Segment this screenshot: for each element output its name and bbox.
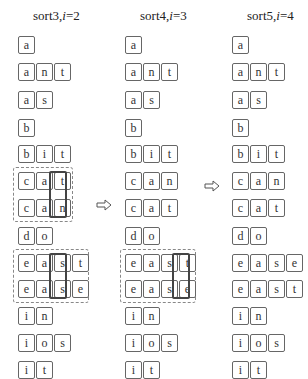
word-row: ios <box>232 334 286 351</box>
letter-cell: i <box>125 361 142 379</box>
letter-cell: t <box>268 145 285 163</box>
title-suffix: =4 <box>280 8 294 23</box>
letter-cell: b <box>18 145 35 163</box>
letter-cell: e <box>125 254 142 272</box>
column-title: sort5,i=4 <box>247 8 294 24</box>
letter-cell: n <box>250 307 267 325</box>
letter-cell: s <box>250 91 267 109</box>
letter-cell: t <box>54 63 71 81</box>
sort-key-highlight <box>49 171 67 218</box>
letter-cell: a <box>232 91 249 109</box>
letter-cell: o <box>143 334 160 352</box>
word-row: ant <box>18 63 72 80</box>
word-row: b <box>18 119 36 136</box>
letter-cell: a <box>143 172 160 190</box>
letter-cell: i <box>232 361 249 379</box>
letter-cell: o <box>143 227 160 245</box>
letter-cell: i <box>18 361 35 379</box>
letter-cell: t <box>268 63 285 81</box>
letter-cell: a <box>250 280 267 298</box>
letter-cell: n <box>250 63 267 81</box>
letter-cell: a <box>232 36 249 54</box>
arrow-right-icon <box>204 180 220 192</box>
letter-cell: t <box>268 199 285 217</box>
letter-cell: e <box>232 280 249 298</box>
word-row: in <box>125 307 161 324</box>
word-row: a <box>125 36 143 53</box>
letter-cell: t <box>36 361 53 379</box>
column-title: sort4,i=3 <box>140 8 187 24</box>
letter-cell: i <box>250 145 267 163</box>
letter-cell: e <box>18 254 35 272</box>
word-row: a <box>232 36 250 53</box>
word-row: in <box>18 307 54 324</box>
sort-key-highlight <box>172 253 190 299</box>
letter-cell: t <box>250 361 267 379</box>
word-row: it <box>18 361 54 378</box>
letter-cell: d <box>125 227 142 245</box>
letter-cell: a <box>125 91 142 109</box>
word-row: as <box>18 91 54 108</box>
letter-cell: d <box>18 227 35 245</box>
letter-cell: s <box>268 254 285 272</box>
letter-cell: t <box>143 361 160 379</box>
letter-cell: a <box>143 254 160 272</box>
letter-cell: i <box>18 334 35 352</box>
letter-cell: s <box>143 91 160 109</box>
letter-cell: e <box>232 254 249 272</box>
letter-cell: d <box>232 227 249 245</box>
word-row: cat <box>232 199 286 216</box>
word-row: ios <box>125 334 179 351</box>
word-row: can <box>125 172 179 189</box>
letter-cell: e <box>125 280 142 298</box>
letter-cell: c <box>125 199 142 217</box>
word-row: it <box>232 361 268 378</box>
letter-cell: t <box>286 280 303 298</box>
word-row: ant <box>125 63 179 80</box>
column-title: sort3,i=2 <box>33 8 80 24</box>
letter-cell: i <box>232 307 249 325</box>
letter-cell: a <box>125 63 142 81</box>
letter-cell: t <box>161 63 178 81</box>
word-row: as <box>125 91 161 108</box>
letter-cell: c <box>18 199 35 217</box>
letter-cell: i <box>125 307 142 325</box>
word-row: a <box>18 36 36 53</box>
letter-cell: c <box>232 172 249 190</box>
letter-cell: b <box>125 145 142 163</box>
letter-cell: c <box>18 172 35 190</box>
title-prefix: sort3, <box>33 8 62 23</box>
word-row: as <box>232 91 268 108</box>
word-row: do <box>232 227 268 244</box>
word-row: cat <box>125 199 179 216</box>
word-row: bit <box>125 145 179 162</box>
letter-cell: i <box>232 334 249 352</box>
letter-cell: t <box>54 145 71 163</box>
word-row: bit <box>18 145 72 162</box>
letter-cell: i <box>36 145 53 163</box>
letter-cell: n <box>161 172 178 190</box>
letter-cell: a <box>232 63 249 81</box>
letter-cell: n <box>36 307 53 325</box>
word-row: b <box>125 119 143 136</box>
word-row: ios <box>18 334 72 351</box>
letter-cell: a <box>250 254 267 272</box>
letter-cell: s <box>36 91 53 109</box>
letter-cell: a <box>125 36 142 54</box>
letter-cell: t <box>161 199 178 217</box>
letter-cell: s <box>268 280 285 298</box>
letter-cell: n <box>268 172 285 190</box>
word-row: b <box>232 119 250 136</box>
letter-cell: o <box>36 227 53 245</box>
letter-cell: b <box>232 145 249 163</box>
title-prefix: sort5, <box>247 8 276 23</box>
letter-cell: c <box>232 199 249 217</box>
arrow-right-icon <box>96 199 112 211</box>
letter-cell: a <box>18 91 35 109</box>
word-row: do <box>125 227 161 244</box>
word-row: in <box>232 307 268 324</box>
letter-cell: i <box>125 334 142 352</box>
letter-cell: b <box>125 119 142 137</box>
word-row: bit <box>232 145 286 162</box>
sort-key-highlight <box>49 253 67 299</box>
